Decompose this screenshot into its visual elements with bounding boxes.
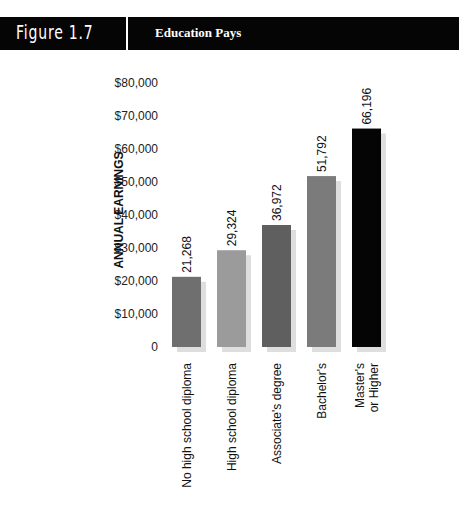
data-label: 51,792 [315, 135, 329, 172]
data-label: 66,196 [360, 88, 374, 125]
category-label: Master's [353, 363, 367, 408]
bar [217, 250, 246, 347]
y-tick-label: $10,000 [115, 307, 159, 321]
y-axis-label: ANNUAL EARNINGS [112, 151, 126, 268]
bar [352, 129, 381, 347]
data-label: 21,268 [180, 236, 194, 273]
data-label: 29,324 [225, 209, 239, 246]
bar-chart: 0$10,000$20,000$30,000$40,000$50,000$60,… [0, 0, 474, 513]
bar [262, 225, 291, 347]
y-tick-label: $80,000 [115, 76, 159, 90]
y-tick-label: 0 [151, 340, 158, 354]
category-label: Bachelor's [315, 363, 329, 419]
category-label: High school diploma [225, 363, 239, 471]
bar [172, 277, 201, 347]
category-labels: No high school diplomaHigh school diplom… [180, 363, 381, 488]
bars [172, 129, 386, 352]
category-label: Associate's degree [270, 363, 284, 464]
bar [307, 176, 336, 347]
data-label: 36,972 [270, 184, 284, 221]
category-label: or Higher [367, 363, 381, 412]
y-tick-label: $70,000 [115, 109, 159, 123]
y-tick-label: $20,000 [115, 274, 159, 288]
category-label: No high school diploma [180, 363, 194, 488]
